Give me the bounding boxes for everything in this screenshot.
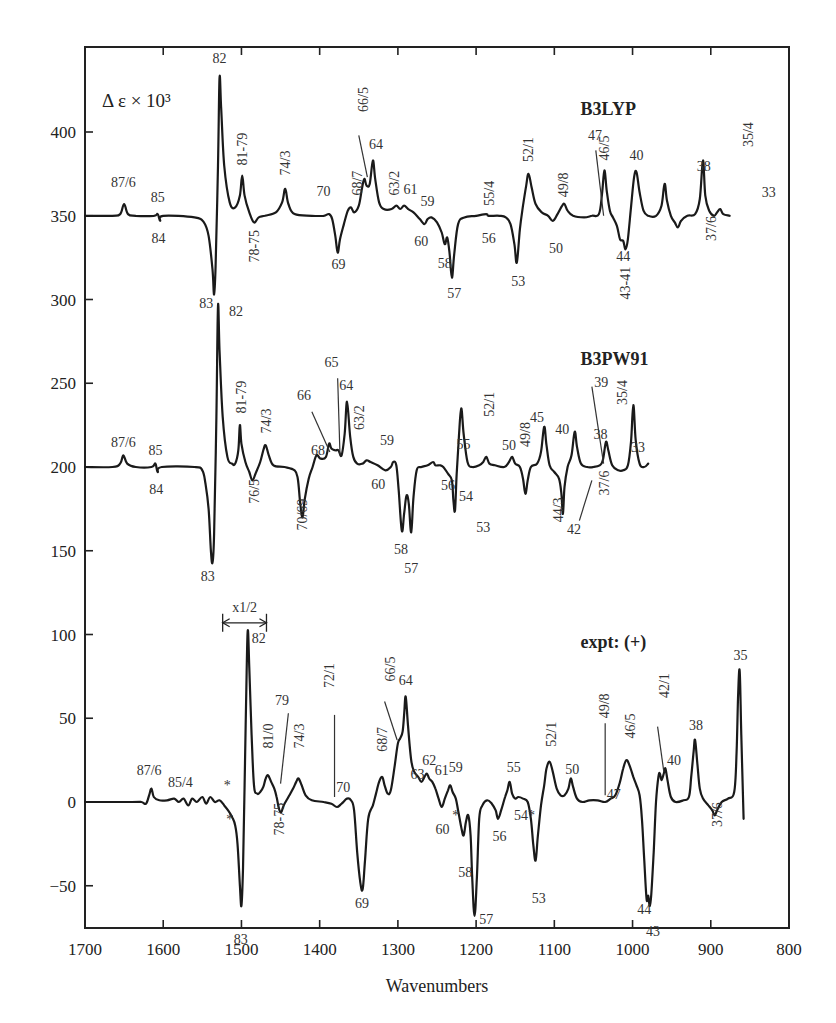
- peak-label: 85: [148, 443, 162, 458]
- peak-label: 60: [435, 822, 449, 837]
- x-tick-label: 1600: [146, 940, 180, 959]
- peak-label: 76/5: [247, 479, 262, 504]
- peak-label: 54: [459, 489, 473, 504]
- asterisk-marker: *: [224, 778, 231, 793]
- x-axis-title: Wavenumbers: [386, 976, 489, 996]
- x-tick-label: 1400: [303, 940, 337, 959]
- x-tick-label: 900: [698, 940, 724, 959]
- peak-label: 38: [697, 159, 711, 174]
- peak-label: 44: [637, 902, 651, 917]
- peak-label: 49/8: [597, 693, 612, 718]
- peak-label: 79: [275, 693, 289, 708]
- peak-label: 69: [331, 257, 345, 272]
- peak-label: 68/7: [350, 171, 365, 196]
- peak-label: 63/2: [352, 405, 367, 430]
- x-tick-label: 1700: [68, 940, 102, 959]
- peak-label: 70: [317, 184, 331, 199]
- peak-label: 55: [507, 760, 521, 775]
- y-tick-label: −50: [49, 877, 76, 896]
- peak-label: 53: [476, 520, 490, 535]
- peak-label: 45: [530, 410, 544, 425]
- peak-label: 70/69: [295, 499, 310, 531]
- peak-label: 56: [493, 829, 507, 844]
- peak-label: 53: [511, 274, 525, 289]
- peak-label: 61: [403, 182, 417, 197]
- peak-label: 81/0: [261, 724, 276, 749]
- peak-label: 84: [149, 482, 163, 497]
- peak-label: 82: [213, 51, 227, 66]
- peak-label: 52/1: [544, 722, 559, 747]
- y-axis-ticks: −50050100150200250300350400: [49, 123, 93, 896]
- peak-label: 40: [629, 148, 643, 163]
- peak-label: 68: [311, 443, 325, 458]
- series-name: B3LYP: [581, 99, 636, 119]
- peak-label: 57: [479, 912, 493, 927]
- peak-label: 78-75: [272, 803, 287, 836]
- peak-label: 40: [667, 753, 681, 768]
- x-tick-label: 800: [776, 940, 802, 959]
- series-name: expt: (+): [581, 632, 647, 653]
- peak-label: 60: [371, 477, 385, 492]
- peak-label: 55: [457, 437, 471, 452]
- peak-label: 46/5: [623, 714, 638, 739]
- peak-label: 40: [555, 422, 569, 437]
- peak-label: 66/5: [356, 87, 371, 112]
- leader-line: [658, 727, 664, 772]
- peak-label: 55/4: [482, 181, 497, 206]
- scale-bracket: x1/2: [223, 600, 267, 632]
- peak-label: 87/6: [137, 763, 162, 778]
- y-tick-label: 300: [51, 291, 77, 310]
- y-tick-label: 150: [51, 542, 77, 561]
- leader-line: [579, 480, 592, 520]
- peak-label: 59: [380, 433, 394, 448]
- peak-label: 35/4: [615, 380, 630, 405]
- peak-label: 47: [607, 787, 621, 802]
- asterisk-marker: *: [226, 812, 233, 827]
- peak-label: 50: [549, 241, 563, 256]
- peak-label: 58: [458, 865, 472, 880]
- peak-label: 82: [229, 304, 243, 319]
- peak-label: 57: [404, 561, 418, 576]
- peak-label: 43: [646, 924, 660, 939]
- peak-label: 52/1: [521, 137, 536, 162]
- y-tick-label: 350: [51, 207, 77, 226]
- peak-label: 37/6: [597, 471, 612, 496]
- peak-label: 38: [689, 718, 703, 733]
- peak-label: 42: [567, 522, 581, 537]
- peak-label: 43-41: [618, 267, 633, 300]
- peak-label: 65: [324, 355, 338, 370]
- peak-label: 50: [565, 762, 579, 777]
- y-tick-label: 400: [51, 123, 77, 142]
- peak-label: 69: [355, 896, 369, 911]
- peak-label: 78-75: [247, 230, 262, 263]
- peak-label: 83: [201, 569, 215, 584]
- peak-label: 58: [394, 542, 408, 557]
- peak-label: 37/6: [704, 216, 719, 241]
- y-unit-annotation: Δ ε × 10³: [102, 90, 171, 111]
- peak-label: 38: [593, 427, 607, 442]
- series-name: B3PW91: [581, 349, 649, 369]
- peak-label: 66: [297, 388, 311, 403]
- peak-label: 83: [199, 296, 213, 311]
- peak-label: 33: [762, 185, 776, 200]
- leader-line: [592, 387, 604, 464]
- peak-label: 39: [594, 375, 608, 390]
- peak-label: 64: [369, 137, 383, 152]
- peak-label: 84: [152, 231, 166, 246]
- peak-label: 59: [421, 194, 435, 209]
- peak-label: 49/8: [556, 172, 571, 197]
- peak-label: 54*: [514, 808, 535, 823]
- peak-label: 74/3: [278, 151, 293, 176]
- peak-label: 82: [252, 631, 266, 646]
- peak-label: 81-79: [234, 381, 249, 414]
- peak-label: 52/1: [482, 392, 497, 417]
- x-tick-label: 1300: [381, 940, 415, 959]
- scale-factor-label: x1/2: [232, 600, 257, 615]
- peak-label: 85/4: [168, 775, 193, 790]
- peak-label: 53: [532, 891, 546, 906]
- peak-label: 56: [441, 478, 455, 493]
- peak-label: 64: [399, 673, 413, 688]
- peak-label: 42/1: [657, 673, 672, 698]
- x-tick-label: 1200: [459, 940, 493, 959]
- peak-label: 68/7: [375, 727, 390, 752]
